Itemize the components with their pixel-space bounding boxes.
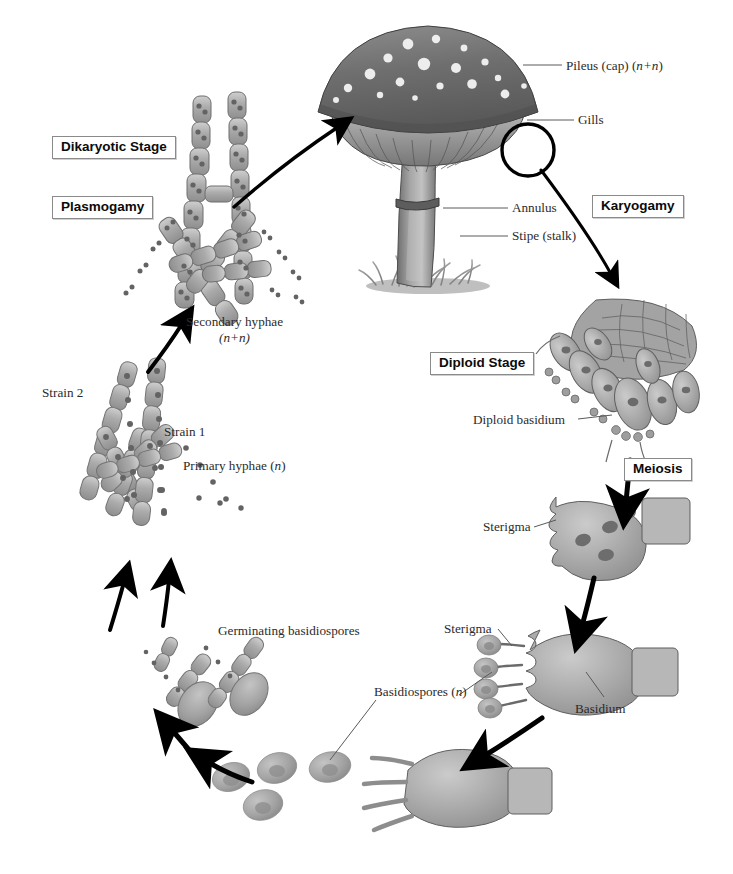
- label-sterigma-meiosis: Sterigma: [483, 519, 531, 535]
- label-stipe: Stipe (stalk): [512, 228, 576, 244]
- arrow-to-basidiospores: [582, 578, 594, 626]
- label-germinating-basidiospores: Germinating basidiospores: [218, 623, 360, 639]
- stage-label-meiosis: Meiosis: [624, 458, 692, 481]
- arrow-spore-germination-2: [172, 730, 196, 758]
- stage-label-karyogamy: Karyogamy: [592, 195, 684, 218]
- germinating-basidiospores-illustration: [144, 635, 354, 825]
- stage-label-plasmogamy: Plasmogamy: [52, 196, 153, 219]
- arrow-germling-to-hypha-2: [163, 580, 169, 626]
- label-diploid-basidium: Diploid basidium: [473, 412, 565, 428]
- label-annulus: Annulus: [512, 200, 557, 216]
- free-basidiospores: [209, 748, 354, 824]
- secondary-hyphae-illustration: [156, 92, 272, 328]
- label-strain-2: Strain 2: [42, 385, 83, 401]
- label-primary-hyphae: Primary hyphae (n): [183, 458, 286, 474]
- arrow-dikaryotic-to-mushroom: [234, 127, 338, 207]
- label-secondary-hyphae: Secondary hyphae (n+n): [186, 314, 283, 346]
- arrow-germling-to-hypha-1: [110, 582, 124, 630]
- stage-label-diploid: Diploid Stage: [430, 352, 534, 375]
- label-basidium: Basidium: [575, 701, 626, 717]
- stage-label-dikaryotic: Dikaryotic Stage: [52, 136, 176, 159]
- diagram-artwork: [0, 0, 733, 874]
- life-cycle-figure: Dikaryotic Stage Plasmogamy Karyogamy Di…: [0, 0, 733, 874]
- gill-magnifier-circle: [502, 124, 554, 176]
- mushroom-illustration: [318, 26, 554, 294]
- primary-hyphae-illustration: [78, 357, 183, 526]
- arrow-karyogamy: [541, 170, 611, 274]
- label-gills: Gills: [578, 112, 604, 128]
- meiotic-basidium-illustration: [549, 497, 690, 581]
- diploid-basidium-cluster: [536, 299, 702, 462]
- label-strain-1: Strain 1: [164, 424, 205, 440]
- arrow-spore-release: [484, 718, 542, 756]
- label-basidiospores: Basidiospores (n): [374, 684, 467, 700]
- leader-basidiospores-lower: [330, 700, 376, 760]
- label-sterigma-basidium: Sterigma: [444, 621, 492, 637]
- label-pileus: Pileus (cap) (n+n): [566, 58, 663, 74]
- empty-basidium-illustration: [364, 749, 552, 830]
